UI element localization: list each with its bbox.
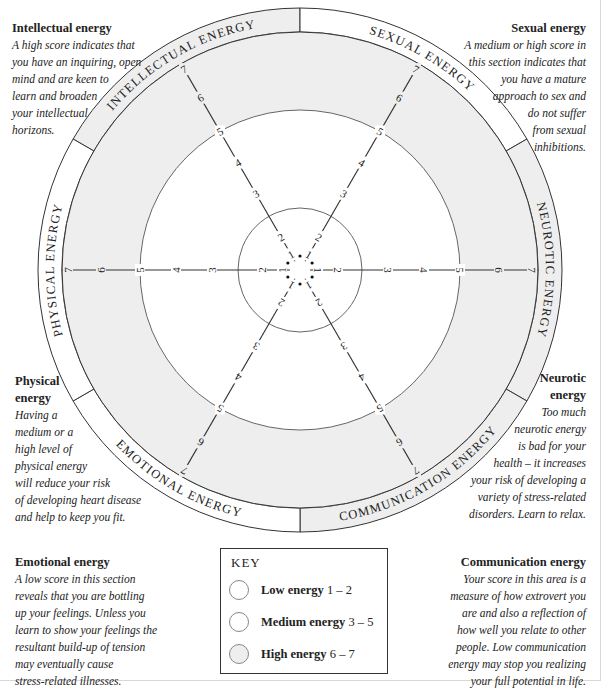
legend-name: Low energy [261, 583, 324, 597]
legend-item-medium: Medium energy 3 – 5 [229, 611, 373, 633]
scale-number: 4 [170, 267, 182, 273]
scale-number: 2 [332, 267, 344, 273]
scale-number: 7 [526, 267, 538, 273]
legend-item-low: Low energy 1 – 2 [229, 579, 352, 601]
desc-title: Communication energy [386, 554, 586, 571]
legend-title: KEY [231, 555, 261, 571]
desc-sexual: Sexual energy A medium or high score int… [416, 20, 586, 156]
legend-range: 3 – 5 [348, 615, 373, 629]
circle-swatch-icon [229, 612, 249, 632]
desc-title: Emotional energy [15, 554, 215, 571]
desc-body: A high score indicates thatyou have an i… [12, 37, 202, 139]
scale-number: 6 [493, 267, 505, 273]
desc-body: A medium or high score inthis section in… [416, 37, 586, 156]
legend-name: High energy [261, 647, 327, 661]
scale-number: 7 [62, 267, 74, 273]
scale-number: 5 [454, 267, 466, 273]
scale-number: 5 [134, 267, 146, 273]
center-dot [311, 275, 314, 278]
desc-body: Too muchneurotic energyis bad for yourhe… [416, 404, 586, 523]
desc-title: Sexual energy [416, 20, 586, 37]
legend-key: KEY Low energy 1 – 2 Medium energy 3 – 5… [220, 548, 388, 674]
desc-communication: Communication energy Your score in this … [386, 554, 586, 690]
legend-name: Medium energy [261, 615, 345, 629]
desc-title: Physicalenergy [15, 373, 185, 407]
scale-number: 3 [382, 267, 394, 273]
legend-item-high: High energy 6 – 7 [229, 643, 355, 665]
desc-neurotic: Neuroticenergy Too muchneurotic energyis… [416, 370, 586, 523]
scale-number: 2 [256, 267, 268, 273]
desc-title: Neuroticenergy [416, 370, 586, 404]
scale-number: 1 [276, 267, 288, 273]
scale-number: 4 [418, 267, 430, 273]
page: INTELLECTUAL ENERGYSEXUAL ENERGYNEUROTIC… [0, 0, 601, 681]
desc-intellectual: Intellectual energy A high score indicat… [12, 20, 202, 139]
legend-range: 6 – 7 [330, 647, 355, 661]
scale-number: 6 [95, 267, 107, 273]
scale-number: 1 [312, 267, 324, 273]
desc-title: Intellectual energy [12, 20, 202, 37]
center-dot [286, 275, 289, 278]
center-dot [311, 261, 314, 264]
center-dot [298, 254, 301, 257]
desc-body: Your score in this area is ameasure of h… [386, 571, 586, 690]
circle-swatch-icon [229, 644, 249, 664]
desc-physical: Physicalenergy Having amedium or ahigh l… [15, 373, 185, 526]
scale-number: 3 [206, 267, 218, 273]
desc-body: A low score in this sectionreveals that … [15, 571, 215, 690]
desc-emotional: Emotional energy A low score in this sec… [15, 554, 215, 690]
center-dot [298, 282, 301, 285]
center-dot [286, 261, 289, 264]
legend-range: 1 – 2 [327, 583, 352, 597]
circle-swatch-icon [229, 580, 249, 600]
desc-body: Having amedium or ahigh level ofphysical… [15, 407, 185, 526]
